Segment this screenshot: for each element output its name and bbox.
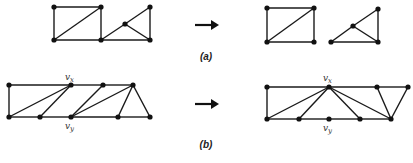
panel-label-b: (b) — [200, 139, 213, 150]
graph-vertex — [37, 114, 42, 119]
graph-vertex — [130, 82, 135, 87]
graph-edge — [40, 85, 71, 117]
graph-vertex — [264, 84, 269, 89]
graph-edge — [353, 26, 378, 42]
vertex-label-vx: vx — [323, 73, 332, 85]
arrow-right-icon — [211, 20, 219, 30]
graph-vertex — [68, 114, 73, 119]
graph-edge — [329, 87, 391, 119]
graph-vertex — [374, 84, 379, 89]
graph-vertex — [147, 114, 152, 119]
graph-vertex — [375, 39, 380, 44]
graph-vertex — [147, 37, 152, 42]
graph-edge — [125, 24, 150, 40]
graph-vertex — [51, 4, 56, 9]
vertex-label-vy: vy — [323, 123, 333, 135]
arrows-layer — [195, 20, 219, 109]
graph-edge — [267, 87, 329, 119]
graph-vertex — [147, 4, 152, 9]
graph-edge — [54, 7, 101, 40]
graph-edge — [118, 85, 133, 117]
graph-vertex — [122, 21, 127, 26]
graph-vertex — [296, 116, 301, 121]
graph-vertex — [357, 116, 362, 121]
graph-vertex — [311, 5, 316, 10]
graph-transformation-figure: (a)vxvyvxvy(b) — [0, 0, 413, 163]
graph-vertex — [328, 39, 333, 44]
graph-vertex — [264, 39, 269, 44]
graph-vertex — [311, 39, 316, 44]
graph-edge — [71, 85, 133, 117]
graph-vertex — [388, 116, 393, 121]
graph-edge — [331, 26, 353, 42]
graph-edge — [329, 87, 360, 119]
graph-vertex — [98, 4, 103, 9]
graph-vertex — [264, 5, 269, 10]
graph-edge — [125, 7, 150, 24]
graph-vertex — [350, 23, 355, 28]
graph-vertex — [6, 114, 11, 119]
graph-vertex — [326, 84, 331, 89]
vertex-label-vy: vy — [65, 121, 75, 133]
graph-edge — [391, 87, 408, 119]
graph-edge — [267, 8, 314, 42]
graph-vertex — [115, 114, 120, 119]
graph-vertex — [405, 84, 410, 89]
graph-edge — [377, 87, 391, 119]
labels-layer: (a)vxvyvxvy(b) — [65, 51, 333, 150]
edges-layer — [9, 7, 408, 119]
panel-label-a: (a) — [200, 51, 213, 62]
graph-vertex — [98, 37, 103, 42]
graph-edge — [353, 9, 378, 26]
graph-vertex — [6, 82, 11, 87]
graph-edge — [71, 85, 103, 117]
graph-edge — [299, 87, 329, 119]
graph-vertex — [375, 6, 380, 11]
graph-vertex — [51, 37, 56, 42]
arrow-right-icon — [211, 99, 219, 109]
graph-edge — [101, 24, 125, 40]
graph-vertex — [100, 82, 105, 87]
graph-edge — [133, 85, 150, 117]
graph-vertex — [326, 116, 331, 121]
graph-edge — [9, 85, 71, 117]
graph-vertex — [264, 116, 269, 121]
vertex-label-vx: vx — [65, 72, 74, 84]
